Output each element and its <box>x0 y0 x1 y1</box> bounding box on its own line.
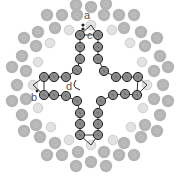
pale-bead <box>45 38 55 48</box>
outer-bead <box>56 9 68 21</box>
outer-bead <box>148 93 160 105</box>
outer-bead <box>6 61 18 73</box>
outer-bead <box>151 125 163 137</box>
outer-bead <box>139 40 151 52</box>
label-a: a <box>84 9 91 21</box>
outer-bead <box>157 79 169 91</box>
outer-bead <box>20 65 32 77</box>
marker-c-dot <box>81 27 84 30</box>
outer-bead <box>113 149 125 161</box>
outer-bead <box>18 32 30 44</box>
outer-bead <box>30 119 42 131</box>
pale-bead <box>33 103 43 113</box>
pale-bead <box>137 57 147 67</box>
outer-bead <box>41 9 53 21</box>
outer-bead <box>30 40 42 52</box>
outer-bead <box>71 9 83 21</box>
outer-bead <box>148 65 160 77</box>
outer-bead <box>49 22 61 34</box>
outer-bead <box>32 26 44 38</box>
outer-bead <box>162 95 174 107</box>
outer-bead <box>6 95 18 107</box>
marker-a-dot <box>81 23 84 26</box>
outer-bead <box>162 61 174 73</box>
outer-bead <box>154 109 166 121</box>
outer-bead <box>135 131 147 143</box>
outer-bead <box>41 149 53 161</box>
label-c: c <box>87 29 93 41</box>
outer-bead <box>16 50 28 62</box>
outer-bead <box>151 32 163 44</box>
pale-bead <box>125 38 135 48</box>
arrow-d-icon <box>74 80 80 90</box>
outer-bead <box>11 79 23 91</box>
label-d: d <box>66 80 72 92</box>
pale-bead <box>108 135 118 145</box>
outer-bead <box>56 149 68 161</box>
outer-bead <box>135 26 147 38</box>
pale-bead <box>64 25 74 35</box>
outer-bead <box>16 109 28 121</box>
pale-bead <box>46 122 56 132</box>
outer-bead <box>18 125 30 137</box>
bead-ring-diagram: a b c d <box>0 0 180 187</box>
outer-bead <box>139 119 151 131</box>
outer-bead <box>85 156 97 168</box>
outer-bead <box>34 131 46 143</box>
outer-bead <box>49 137 61 149</box>
outer-bead <box>118 137 130 149</box>
pale-bead <box>138 103 148 113</box>
outer-bead <box>128 149 140 161</box>
outer-bead <box>72 146 84 158</box>
outer-bead <box>98 9 110 21</box>
pale-bead <box>107 25 117 35</box>
outer-bead <box>113 9 125 21</box>
pale-bead <box>126 122 136 132</box>
chain-link-line <box>44 35 138 135</box>
diagram-canvas: a b c d <box>0 0 180 187</box>
outer-bead <box>70 160 82 172</box>
outer-bead <box>98 146 110 158</box>
label-b: b <box>31 91 37 103</box>
pale-bead <box>33 57 43 67</box>
pale-bead <box>64 135 74 145</box>
outer-bead <box>100 160 112 172</box>
outer-bead <box>128 9 140 21</box>
outer-bead <box>154 50 166 62</box>
outer-bead <box>118 22 130 34</box>
